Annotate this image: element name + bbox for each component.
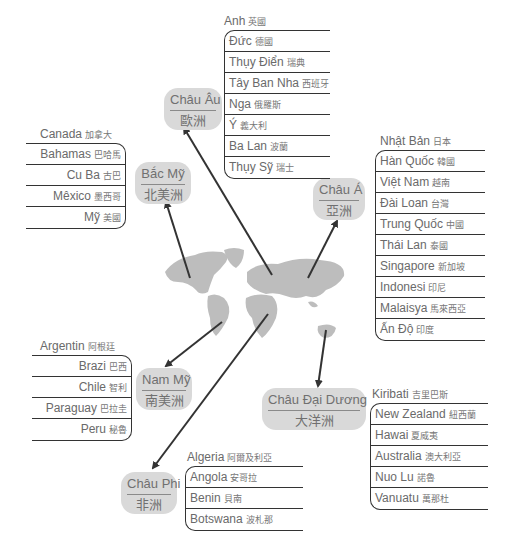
- continent-africa-cn: 非洲: [127, 495, 171, 513]
- country-row[interactable]: Botswana波札那: [186, 509, 303, 530]
- continent-asia-vn: Châu Á: [319, 182, 359, 201]
- country-head: Nhật Bản日本: [375, 133, 485, 150]
- continent-north-america-vn: Bắc Mỹ: [141, 166, 185, 185]
- country-row[interactable]: Chile智利: [32, 377, 131, 398]
- country-row[interactable]: Tây Ban Nha西班牙: [225, 73, 330, 94]
- continent-north-america-cn: 北美洲: [141, 185, 185, 203]
- continent-oceania-cn: 大洋洲: [268, 411, 360, 429]
- country-row[interactable]: Benin貝南: [186, 488, 303, 509]
- continent-africa[interactable]: Châu Phi 非洲: [121, 472, 177, 514]
- country-row[interactable]: Australia澳大利亞: [371, 446, 488, 467]
- country-row[interactable]: Nuo Lu諾魯: [371, 467, 488, 488]
- continent-south-america[interactable]: Nam Mỹ 南美洲: [136, 368, 192, 410]
- country-row[interactable]: Hàn Quốc韓國: [376, 151, 485, 172]
- country-group-europe: Anh英國 Đức德國 Thụy Điển瑞典 Tây Ban Nha西班牙 N…: [224, 13, 330, 179]
- arrow-samerica: [166, 322, 222, 366]
- country-row[interactable]: Ý義大利: [225, 115, 330, 136]
- country-row[interactable]: Vanuatu萬那杜: [371, 488, 488, 509]
- country-row[interactable]: Paraguay巴拉圭: [32, 398, 131, 419]
- country-row[interactable]: Brazi巴西: [32, 356, 131, 377]
- country-row[interactable]: Thụy Điển瑞典: [225, 52, 330, 73]
- country-group-oceania: Kiribati吉里巴斯 New Zealand紐西蘭 Hawai夏威夷 Aus…: [370, 386, 488, 510]
- continent-north-america[interactable]: Bắc Mỹ 北美洲: [135, 162, 191, 204]
- continent-europe-vn: Châu Âu: [170, 92, 216, 111]
- country-row[interactable]: Trung Quốc中國: [376, 214, 485, 235]
- country-group-north-america: Canada加拿大 Bahamas巴哈馬 Cu Ba古巴 Mêxico墨西哥 M…: [26, 126, 126, 229]
- country-row[interactable]: Việt Nam越南: [376, 172, 485, 193]
- continent-south-america-vn: Nam Mỹ: [142, 372, 186, 391]
- continent-oceania-vn: Châu Đại Dương: [268, 392, 360, 411]
- country-row[interactable]: Thụy Sỹ瑞士: [225, 157, 330, 178]
- country-head: Anh英國: [224, 13, 330, 30]
- country-group-south-america: Argentin阿根廷 Brazi巴西 Chile智利 Paraguay巴拉圭 …: [32, 338, 132, 441]
- country-row[interactable]: Bahamas巴哈馬: [26, 144, 125, 165]
- continent-asia-cn: 亞洲: [319, 201, 359, 219]
- arrow-oceania: [318, 330, 326, 386]
- continent-europe[interactable]: Châu Âu 歐洲: [164, 88, 222, 130]
- country-head: Algeria阿爾及利亞: [185, 449, 303, 466]
- country-row[interactable]: Thái Lan泰國: [376, 235, 485, 256]
- country-group-africa: Algeria阿爾及利亞 Angola安哥拉 Benin貝南 Botswana波…: [185, 449, 303, 531]
- country-row[interactable]: Indonesi印尼: [376, 277, 485, 298]
- country-head: Kiribati吉里巴斯: [370, 386, 488, 403]
- continent-europe-cn: 歐洲: [170, 111, 216, 129]
- country-row[interactable]: Cu Ba古巴: [26, 165, 125, 186]
- country-row[interactable]: Mỹ美國: [26, 207, 125, 228]
- country-row[interactable]: Đài Loan台灣: [376, 193, 485, 214]
- country-row[interactable]: Peru秘魯: [32, 419, 131, 440]
- continent-asia[interactable]: Châu Á 亞洲: [313, 178, 365, 220]
- country-head: Canada加拿大: [26, 126, 126, 143]
- country-head: Argentin阿根廷: [32, 338, 132, 355]
- country-row[interactable]: Ba Lan波蘭: [225, 136, 330, 157]
- country-row[interactable]: Malaisya馬來西亞: [376, 298, 485, 319]
- country-group-asia: Nhật Bản日本 Hàn Quốc韓國 Việt Nam越南 Đài Loa…: [375, 133, 485, 341]
- country-row[interactable]: Angola安哥拉: [186, 467, 303, 488]
- country-row[interactable]: New Zealand紐西蘭: [371, 404, 488, 425]
- continent-oceania[interactable]: Châu Đại Dương 大洋洲: [262, 388, 366, 430]
- country-row[interactable]: Ấn Độ印度: [376, 319, 485, 340]
- country-row[interactable]: Singapore新加坡: [376, 256, 485, 277]
- country-row[interactable]: Hawai夏威夷: [371, 425, 488, 446]
- country-row[interactable]: Mêxico墨西哥: [26, 186, 125, 207]
- country-row[interactable]: Đức德國: [225, 31, 330, 52]
- continent-africa-vn: Châu Phi: [127, 476, 171, 495]
- country-row[interactable]: Nga俄羅斯: [225, 94, 330, 115]
- continent-south-america-cn: 南美洲: [142, 391, 186, 409]
